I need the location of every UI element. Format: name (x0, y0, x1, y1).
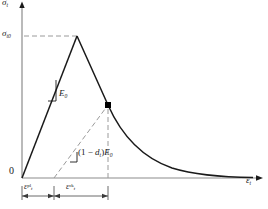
origin-label: 0 (9, 166, 14, 176)
stress-strain-curve-group (22, 36, 253, 178)
tensile-damage-chart: σt εt σt0 0 E0 (1 − dt)E0 εplt εckt (0, 0, 268, 209)
unloading-point-marker (105, 102, 111, 108)
x-axis-arrow-icon (256, 175, 263, 181)
initial-modulus-label: E0 (59, 89, 67, 99)
dimension-bars-group (22, 186, 108, 200)
chart-canvas (0, 0, 268, 209)
cracking-strain-right-arrow-icon (102, 194, 108, 198)
initial-modulus-tick-icon (48, 80, 56, 101)
plastic-strain-left-arrow-icon (22, 194, 28, 198)
cracking-strain-left-arrow-icon (54, 194, 60, 198)
y-axis-arrow-icon (19, 2, 24, 9)
y-axis-label: σt (2, 0, 8, 8)
plastic-strain-label: εplt (24, 183, 32, 192)
x-axis-label: εt (246, 176, 251, 186)
damaged-modulus-label: (1 − dt)E0 (78, 148, 112, 158)
cracking-strain-label: εckt (66, 183, 75, 192)
unloading-secant-dashed-line (54, 105, 108, 178)
damaged-modulus-tick-icon (70, 152, 77, 162)
plastic-strain-right-arrow-icon (48, 194, 54, 198)
peak-stress-label: σt0 (2, 29, 11, 39)
elastic-branch-path (22, 36, 77, 178)
